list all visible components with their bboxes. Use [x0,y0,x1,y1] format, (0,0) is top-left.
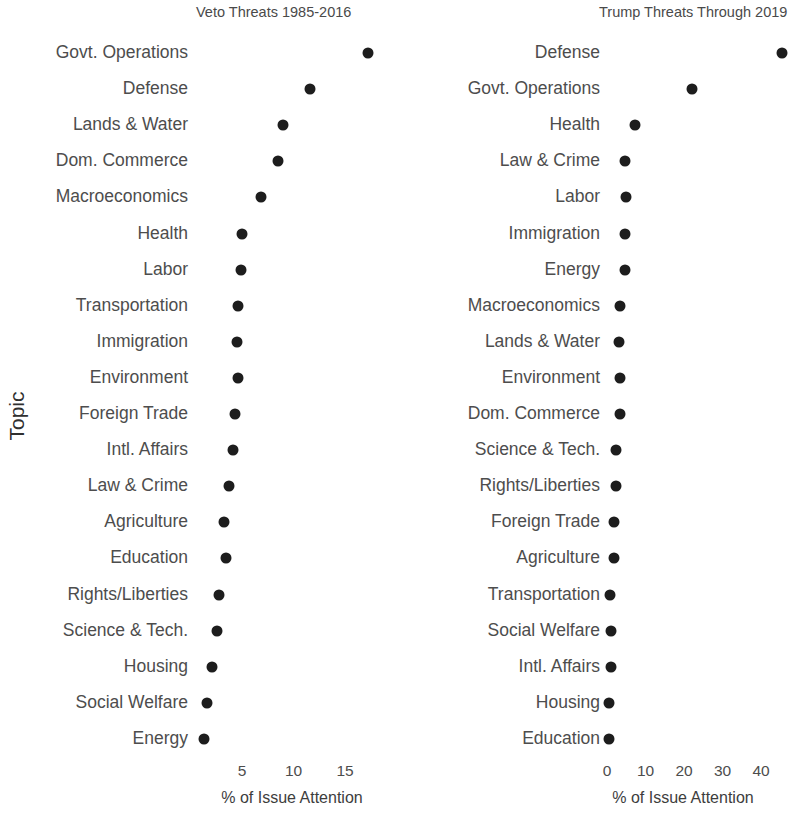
category-label: Labor [143,261,188,279]
category-label: Rights/Liberties [67,586,188,604]
data-point [273,156,284,167]
category-label: Immigration [97,333,188,351]
dot-plot-figure: Topic Veto Threats 1985-2016 Govt. Opera… [0,0,794,816]
data-point [615,300,626,311]
category-label: Immigration [509,225,600,243]
data-point [304,84,315,95]
data-point [227,445,238,456]
data-point [220,553,231,564]
category-label: Science & Tech. [63,622,188,640]
category-label: Intl. Affairs [107,441,188,459]
x-axis-title-left: % of Issue Attention [221,789,362,807]
data-point [232,300,243,311]
data-point [207,661,218,672]
data-point [620,192,631,203]
category-label: Intl. Affairs [519,658,600,676]
data-point [605,625,616,636]
x-axis-tick-label: 0 [603,762,612,780]
panel-trump-threats: Trump Threats Through 2019 DefenseGovt. … [400,0,794,816]
data-point [620,264,631,275]
data-point [603,733,614,744]
category-label: Agriculture [516,550,600,568]
x-axis-tick-label: 5 [238,762,247,780]
category-label: Labor [555,189,600,207]
data-point [255,192,266,203]
category-label: Transportation [488,586,600,604]
category-label: Defense [535,44,600,62]
data-point [620,228,631,239]
data-point [223,481,234,492]
category-label: Agriculture [104,514,188,532]
category-label: Health [137,225,188,243]
data-point [610,481,621,492]
panel-veto-threats: Veto Threats 1985-2016 Govt. OperationsD… [0,0,400,816]
data-point [615,409,626,420]
category-label: Energy [133,730,188,748]
data-point [214,589,225,600]
category-label: Education [522,730,600,748]
data-point [605,589,616,600]
x-axis-tick-label: 10 [637,762,654,780]
data-point [610,445,621,456]
data-point [620,156,631,167]
category-label: Law & Crime [88,477,188,495]
category-label: Social Welfare [487,622,600,640]
category-label: Foreign Trade [491,514,600,532]
data-point [608,553,619,564]
category-label: Macroeconomics [468,297,600,315]
data-point [198,733,209,744]
data-point [687,84,698,95]
category-label: Rights/Liberties [479,477,600,495]
category-label: Govt. Operations [468,80,600,98]
category-label: Dom. Commerce [56,153,188,171]
x-axis-tick-label: 20 [675,762,692,780]
data-point [605,661,616,672]
data-point [777,48,788,59]
data-point [608,517,619,528]
data-point [615,372,626,383]
data-point [201,697,212,708]
x-axis-tick-label: 10 [285,762,302,780]
category-label: Education [110,550,188,568]
x-axis-tick-label: 40 [752,762,769,780]
category-label: Lands & Water [485,333,600,351]
category-label: Environment [90,369,188,387]
category-label: Govt. Operations [56,44,188,62]
plot-area-right: DefenseGovt. OperationsHealthLaw & Crime… [400,0,794,816]
data-point [231,336,242,347]
data-point [278,120,289,131]
category-label: Housing [124,658,188,676]
data-point [229,409,240,420]
data-point [232,372,243,383]
category-label: Housing [536,694,600,712]
data-point [613,336,624,347]
data-point [630,120,641,131]
x-axis-tick-label: 15 [336,762,353,780]
data-point [212,625,223,636]
category-label: Energy [545,261,600,279]
category-label: Environment [502,369,600,387]
category-label: Foreign Trade [79,405,188,423]
category-label: Lands & Water [73,116,188,134]
data-point [603,697,614,708]
category-label: Health [549,116,600,134]
category-label: Defense [123,80,188,98]
data-point [235,264,246,275]
category-label: Macroeconomics [56,189,188,207]
category-label: Dom. Commerce [468,405,600,423]
data-point [362,48,373,59]
x-axis-title-right: % of Issue Attention [612,789,753,807]
category-label: Transportation [76,297,188,315]
x-axis-tick-label: 30 [714,762,731,780]
plot-area-left: Govt. OperationsDefenseLands & WaterDom.… [0,0,400,816]
category-label: Social Welfare [75,694,188,712]
data-point [237,228,248,239]
data-point [219,517,230,528]
category-label: Science & Tech. [475,441,600,459]
category-label: Law & Crime [500,153,600,171]
